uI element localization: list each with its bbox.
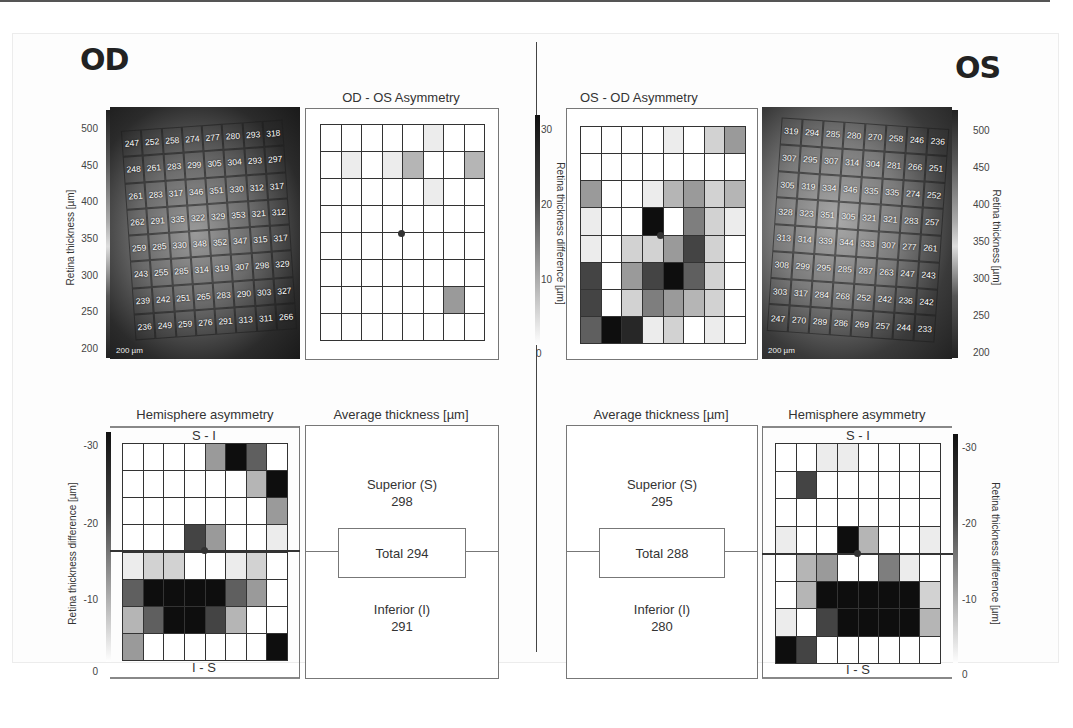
thickness-value: 351 xyxy=(205,176,227,204)
od-hemi-fovea-marker xyxy=(201,547,208,554)
heatmap-cell xyxy=(725,181,745,207)
heatmap-cell xyxy=(362,206,382,232)
heatmap-cell xyxy=(383,206,403,232)
heatmap-cell xyxy=(226,580,246,606)
od-inferior-label: Inferior (I) xyxy=(306,601,498,618)
heatmap-cell xyxy=(705,290,725,316)
axis-tick-label: 450 xyxy=(70,160,98,171)
thickness-value: 329 xyxy=(271,251,293,279)
heatmap-cell xyxy=(838,554,858,581)
thickness-value: 304 xyxy=(224,149,246,177)
thickness-value: 305 xyxy=(204,150,226,178)
od-average-panel: Superior (S) 298 Total 294 Inferior (I) … xyxy=(305,425,499,679)
thickness-value: 258 xyxy=(885,125,908,153)
heatmap-cell xyxy=(581,208,601,234)
thickness-value: 247 xyxy=(767,304,790,332)
thickness-value: 312 xyxy=(268,198,290,226)
heatmap-cell xyxy=(622,154,642,180)
od-superior-value: 298 xyxy=(306,493,498,510)
heatmap-cell xyxy=(321,233,341,259)
heatmap-cell xyxy=(920,499,940,526)
heatmap-cell xyxy=(602,181,622,207)
heatmap-cell xyxy=(123,607,143,633)
thickness-value: 257 xyxy=(921,208,944,236)
heatmap-cell xyxy=(705,154,725,180)
thickness-value: 330 xyxy=(226,175,248,203)
heatmap-cell xyxy=(684,154,704,180)
heatmap-cell xyxy=(185,553,205,579)
thickness-value: 258 xyxy=(161,127,183,155)
axis-tick-label: 0 xyxy=(962,669,968,680)
thickness-value: 269 xyxy=(851,310,874,338)
os-inferior-label: Inferior (I) xyxy=(567,601,757,618)
os-fovea-marker xyxy=(657,232,664,239)
heatmap-cell xyxy=(725,290,745,316)
heatmap-cell xyxy=(622,208,642,234)
heatmap-cell xyxy=(920,637,940,664)
heatmap-cell xyxy=(602,290,622,316)
heatmap-cell xyxy=(900,609,920,636)
thickness-value: 259 xyxy=(174,310,196,338)
thickness-value: 255 xyxy=(150,259,172,287)
heatmap-cell xyxy=(643,181,663,207)
thickness-value: 246 xyxy=(905,126,928,154)
thickness-value: 293 xyxy=(244,147,266,175)
heatmap-cell xyxy=(725,236,745,262)
heatmap-cell xyxy=(267,553,287,579)
thickness-value: 243 xyxy=(130,260,152,288)
heatmap-cell xyxy=(444,179,464,205)
os-total-box: Total 288 xyxy=(599,528,725,578)
heatmap-cell xyxy=(247,634,267,660)
heatmap-cell xyxy=(123,580,143,606)
heatmap-cell xyxy=(383,152,403,178)
os-is-label: I - S xyxy=(846,662,870,677)
heatmap-cell xyxy=(859,527,879,554)
axis-tick-label: 500 xyxy=(973,125,990,136)
heatmap-cell xyxy=(403,206,423,232)
thickness-value: 287 xyxy=(854,257,877,285)
heatmap-cell xyxy=(622,317,642,343)
heatmap-cell xyxy=(664,181,684,207)
od-scale-bar: 200 µm xyxy=(116,346,143,355)
axis-tick-label: 400 xyxy=(70,196,98,207)
heatmap-cell xyxy=(776,582,796,609)
heatmap-cell xyxy=(206,580,226,606)
thickness-value: 276 xyxy=(194,309,216,337)
heatmap-cell xyxy=(247,525,267,551)
heatmap-cell xyxy=(879,637,899,664)
os-thickness-grid: 3192942852802702582462363072953073143042… xyxy=(767,117,950,342)
os-thickness-colorbar xyxy=(952,110,958,358)
heatmap-cell xyxy=(144,580,164,606)
heatmap-cell xyxy=(684,127,704,153)
thickness-value: 243 xyxy=(917,261,940,289)
thickness-value: 335 xyxy=(881,178,904,206)
thickness-value: 249 xyxy=(154,311,176,339)
heatmap-cell xyxy=(267,634,287,660)
heatmap-cell xyxy=(206,607,226,633)
heatmap-cell xyxy=(817,472,837,499)
thickness-value: 335 xyxy=(167,205,189,233)
thickness-value: 307 xyxy=(778,144,801,172)
os-eye-label: OS xyxy=(955,50,1000,85)
od-difference-colorbar xyxy=(106,432,111,662)
thickness-value: 293 xyxy=(242,121,264,149)
heatmap-cell xyxy=(879,444,899,471)
os-fundus-image: 3192942852802702582462363072953073143042… xyxy=(762,107,952,359)
thickness-value: 284 xyxy=(811,280,834,308)
heatmap-cell xyxy=(684,236,704,262)
axis-tick-label: 250 xyxy=(973,310,990,321)
heatmap-cell xyxy=(444,287,464,313)
thickness-value: 311 xyxy=(255,304,277,332)
heatmap-cell xyxy=(622,263,642,289)
heatmap-cell xyxy=(144,634,164,660)
heatmap-cell xyxy=(643,127,663,153)
heatmap-cell xyxy=(185,471,205,497)
heatmap-cell xyxy=(797,637,817,664)
thickness-value: 304 xyxy=(862,150,885,178)
thickness-value: 317 xyxy=(270,224,292,252)
thickness-value: 303 xyxy=(253,278,275,306)
od-si-label: S - I xyxy=(192,428,216,443)
thickness-value: 314 xyxy=(191,256,213,284)
heatmap-cell xyxy=(602,263,622,289)
heatmap-cell xyxy=(185,607,205,633)
